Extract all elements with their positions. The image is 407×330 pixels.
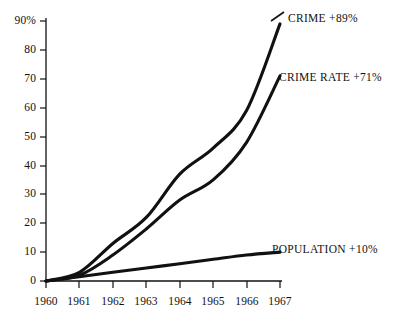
y-axis-label-50: 50	[0, 131, 36, 143]
y-axis-label-70: 70	[0, 73, 36, 85]
y-axis-label-90: 90%	[0, 15, 36, 27]
series-line-crime	[46, 24, 280, 281]
y-axis-label-0: 0	[0, 275, 36, 287]
x-axis-ticks	[46, 281, 280, 288]
series-line-population	[46, 252, 280, 281]
series-label-crime-rate: CRIME RATE +71%	[279, 72, 382, 84]
y-axis-ticks	[40, 21, 46, 281]
x-axis-label-1967: 1967	[255, 296, 305, 308]
series-label-crime: CRIME +89%	[288, 13, 358, 25]
y-axis-label-80: 80	[0, 44, 36, 56]
y-axis-label-40: 40	[0, 160, 36, 172]
series-line-crime-rate	[46, 76, 280, 281]
y-axis-label-30: 30	[0, 188, 36, 200]
y-axis-label-20: 20	[0, 217, 36, 229]
series-label-population: POPULATION +10%	[272, 244, 378, 256]
y-axis-label-60: 60	[0, 102, 36, 114]
crime-line-chart: 90% 80 70 60 50 40 30 20 10 0 1960 1961 …	[0, 0, 407, 330]
crime-leader-line	[271, 12, 284, 21]
y-axis-label-10: 10	[0, 246, 36, 258]
plot-area	[0, 0, 407, 330]
